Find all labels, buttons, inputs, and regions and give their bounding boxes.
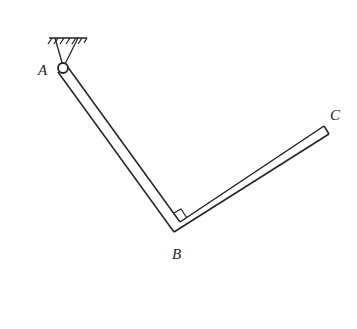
diagram-canvas: A B C	[0, 0, 357, 329]
label-a: A	[38, 62, 47, 79]
label-c: C	[330, 107, 340, 124]
fixed-support-icon	[48, 38, 87, 66]
label-b: B	[172, 246, 181, 263]
pin-joint-a-icon	[58, 63, 68, 73]
bent-bar-diagram	[0, 0, 357, 329]
bar-ab	[58, 66, 180, 232]
bar-bc	[174, 126, 329, 232]
